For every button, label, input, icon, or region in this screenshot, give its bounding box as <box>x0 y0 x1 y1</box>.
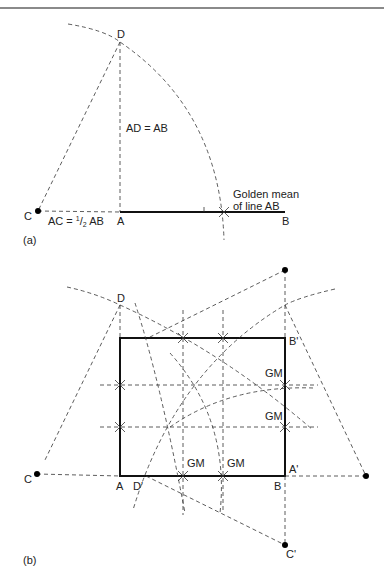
label-b: B <box>282 215 289 227</box>
label-d: D <box>117 28 125 40</box>
label-a: A <box>117 215 125 227</box>
label-c: C <box>24 473 32 485</box>
figure-a: D C A B AD = AB AC = 1/2 AB Golden mean … <box>23 24 299 246</box>
label-a-prime: A' <box>289 463 298 475</box>
panel-label-b: (b) <box>23 554 36 566</box>
label-gm-bottom-2: GM <box>227 457 245 469</box>
line-right-diagonal <box>285 305 366 476</box>
line-d-prime-c-prime <box>146 476 285 545</box>
label-gm-right-1: GM <box>265 367 283 379</box>
line-cd <box>38 42 120 211</box>
figure-b: D C A D' B A' B' C' GM GM GM GM (b) <box>23 267 369 566</box>
label-b: B <box>274 480 281 492</box>
label-c: C <box>24 210 32 222</box>
label-gm-right-2: GM <box>265 410 283 422</box>
point-c-dot <box>34 471 40 477</box>
label-gm-bottom-1: GM <box>187 457 205 469</box>
point-c-dot <box>35 208 41 214</box>
top-dot <box>282 267 288 273</box>
arc-d-top <box>67 287 313 430</box>
label-golden-mean-2: of line AB <box>233 200 279 212</box>
label-ad-eq-ab: AD = AB <box>126 122 168 134</box>
line-top-dot-diagonal <box>148 270 285 338</box>
label-d-prime: D' <box>133 480 143 492</box>
panel-label-a: (a) <box>23 234 36 246</box>
golden-mean-diagram: D C A B AD = AB AC = 1/2 AB Golden mean … <box>0 0 384 582</box>
label-c-prime: C' <box>286 548 296 560</box>
right-dot <box>363 473 369 479</box>
golden-rectangle <box>120 338 285 476</box>
arc-right-vertical <box>170 353 221 513</box>
label-d: D <box>117 292 125 304</box>
label-ac-half-ab: AC = 1/2 AB <box>48 215 104 228</box>
line-ca <box>38 211 120 212</box>
arc-mid-1 <box>170 388 313 427</box>
label-a: A <box>116 480 124 492</box>
line-cd <box>45 305 120 460</box>
label-golden-mean-1: Golden mean <box>233 188 299 200</box>
line-ca <box>37 474 120 476</box>
label-b-prime: B' <box>289 335 298 347</box>
